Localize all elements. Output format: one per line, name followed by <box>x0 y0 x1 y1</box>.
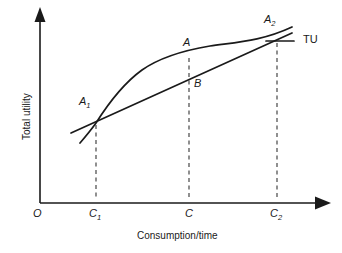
x-tick-label-c: C <box>185 208 193 219</box>
point-label-b: B <box>194 78 201 89</box>
point-label-a: A <box>183 37 190 48</box>
diagram-canvas <box>0 0 342 253</box>
x-axis-arrowhead <box>315 197 331 210</box>
curve-label-tu: TU <box>303 34 318 45</box>
y-axis-title: Total utility <box>22 93 32 140</box>
x-tick-label-c1: C1 <box>89 208 101 222</box>
chord-line-a1-a2 <box>71 33 292 133</box>
utility-diagram: A1 A B A2 TU O C1 C C2 Total utility Con… <box>0 0 342 253</box>
point-label-a1: A1 <box>79 96 91 110</box>
x-tick-label-c2: C2 <box>270 208 282 222</box>
y-axis-arrowhead <box>35 7 46 22</box>
point-label-a2: A2 <box>264 14 276 28</box>
x-axis-title: Consumption/time <box>137 231 218 241</box>
axis-origin-label: O <box>33 208 42 219</box>
